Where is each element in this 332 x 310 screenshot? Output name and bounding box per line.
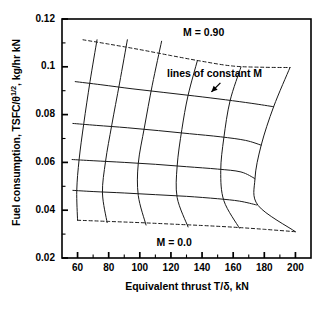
rating-line-1 xyxy=(102,40,127,223)
mach-line-0 xyxy=(83,40,290,68)
rating-line-0 xyxy=(77,40,97,220)
rating-line-5 xyxy=(254,68,296,232)
rating-line-2 xyxy=(137,41,161,225)
y-axis-label-suffix: , kg/hr kN xyxy=(10,39,22,86)
y-tick-label: 0.02 xyxy=(21,252,55,263)
y-axis-label: Fuel consumption, TSFC/θ1/2, kg/hr kN xyxy=(0,0,30,265)
rating-line-4 xyxy=(221,67,241,228)
x-tick-label: 100 xyxy=(125,262,155,273)
x-tick-label: 200 xyxy=(280,262,310,273)
x-tick-label: 80 xyxy=(94,262,124,273)
rating-line-3 xyxy=(176,61,197,227)
mach-line-1 xyxy=(75,82,273,107)
y-tick-label: 0.08 xyxy=(21,108,55,119)
chart-figure: Fuel consumption, TSFC/θ1/2, kg/hr kN Eq… xyxy=(0,0,332,310)
mach-line-4 xyxy=(73,190,257,205)
x-axis-label: Equivalent thrust T/δ, kN xyxy=(62,280,312,292)
y-tick-label: 0.1 xyxy=(21,60,55,71)
x-tick-label: 120 xyxy=(156,262,186,273)
y-axis-label-exponent: 1/2 xyxy=(9,86,18,96)
y-axis-label-prefix: Fuel consumption, TSFC/θ xyxy=(10,96,22,226)
m-high-label: M = 0.90 xyxy=(183,26,224,38)
x-tick-label: 160 xyxy=(218,262,248,273)
mach-line-3 xyxy=(72,160,255,179)
y-tick-label: 0.12 xyxy=(21,13,55,24)
constant-m-label: lines of constant M xyxy=(167,67,262,79)
y-tick-label: 0.06 xyxy=(21,156,55,167)
x-tick-label: 180 xyxy=(249,262,279,273)
x-tick-label: 140 xyxy=(187,262,217,273)
m-zero-label: M = 0.0 xyxy=(157,236,192,248)
x-tick-label: 60 xyxy=(63,262,93,273)
y-tick-label: 0.04 xyxy=(21,204,55,215)
mach-line-2 xyxy=(73,123,261,145)
